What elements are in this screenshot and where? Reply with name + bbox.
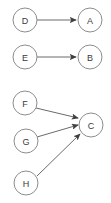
node-label-g: G <box>22 137 29 147</box>
edge-g-to-c <box>37 125 78 137</box>
node-b[interactable]: B <box>78 45 102 69</box>
node-d[interactable]: D <box>13 8 37 32</box>
node-label-a: A <box>87 16 93 26</box>
node-c[interactable]: C <box>79 113 103 137</box>
graph-diagram: DAEBFCGH <box>0 0 111 203</box>
node-label-c: C <box>88 121 95 131</box>
edge-h-to-c <box>37 134 80 176</box>
node-h[interactable]: H <box>14 171 38 195</box>
node-e[interactable]: E <box>13 45 37 69</box>
node-label-b: B <box>87 53 93 63</box>
node-g[interactable]: G <box>14 129 38 153</box>
node-label-e: E <box>22 53 28 63</box>
node-label-d: D <box>22 16 29 26</box>
node-a[interactable]: A <box>78 8 102 32</box>
node-f[interactable]: F <box>13 91 37 115</box>
graph-canvas: DAEBFCGH <box>0 0 111 203</box>
node-label-f: F <box>22 99 28 109</box>
edges-layer <box>36 20 80 176</box>
node-label-h: H <box>23 179 30 189</box>
nodes-layer: DAEBFCGH <box>13 8 103 195</box>
edge-f-to-c <box>36 108 78 118</box>
